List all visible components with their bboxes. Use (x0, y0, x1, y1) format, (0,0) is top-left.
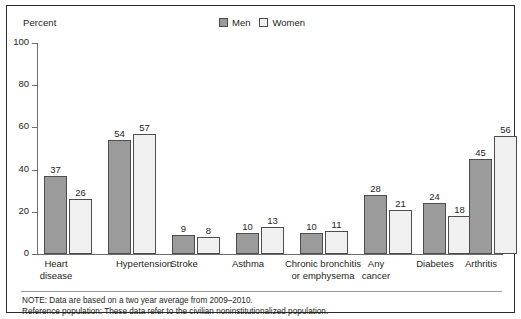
note-line-2: Reference population: These data refer t… (22, 307, 328, 318)
bar-value-men-1: 54 (114, 128, 125, 139)
y-tick-mark-80 (32, 85, 37, 86)
category-label-2: Stroke (148, 258, 220, 270)
y-tick-mark-60 (32, 127, 37, 128)
bar-women-4[interactable]: 11 (325, 231, 348, 254)
y-tick-label-100: 100 (7, 36, 29, 47)
y-tick-40: 40 (7, 170, 37, 171)
bar-value-women-0: 26 (75, 187, 86, 198)
bar-men-5[interactable]: 28 (364, 195, 387, 254)
bar-women-2[interactable]: 8 (197, 237, 220, 254)
figure-root: Percent Men Women 100 80 60 (0, 0, 521, 319)
bar-value-women-5: 21 (395, 198, 406, 209)
x-axis-line (37, 254, 503, 255)
y-tick-100: 100 (7, 43, 37, 44)
footer-divider (21, 291, 502, 292)
bar-women-0[interactable]: 26 (69, 199, 92, 254)
bar-women-1[interactable]: 57 (133, 134, 156, 254)
bar-men-2[interactable]: 9 (172, 235, 195, 254)
y-tick-label-60: 60 (7, 120, 29, 131)
bar-value-women-1: 57 (139, 122, 150, 133)
note-line-1: NOTE: Data are based on a two year avera… (22, 296, 328, 307)
bar-men-4[interactable]: 10 (300, 233, 323, 254)
y-tick-label-0: 0 (7, 247, 29, 258)
y-tick-mark-20 (32, 212, 37, 213)
bar-value-women-3: 13 (267, 215, 278, 226)
y-tick-20: 20 (7, 212, 37, 213)
bar-men-1[interactable]: 54 (108, 140, 131, 254)
category-label-7: Arthritis (445, 258, 517, 270)
bar-value-men-2: 9 (181, 223, 186, 234)
bar-women-6[interactable]: 18 (448, 216, 471, 254)
plot-area: 100 80 60 40 20 0 (7, 6, 516, 314)
bar-value-men-7: 45 (475, 147, 486, 158)
bar-men-7[interactable]: 45 (469, 159, 492, 254)
bar-men-3[interactable]: 10 (236, 233, 259, 254)
bar-value-men-0: 37 (50, 164, 61, 175)
chart-frame: Percent Men Women 100 80 60 (6, 5, 515, 313)
bar-men-6[interactable]: 24 (423, 203, 446, 254)
y-tick-mark-40 (32, 170, 37, 171)
bar-men-0[interactable]: 37 (44, 176, 67, 254)
bar-value-men-4: 10 (306, 221, 317, 232)
bar-value-women-6: 18 (454, 204, 465, 215)
bar-women-3[interactable]: 13 (261, 227, 284, 254)
y-tick-label-80: 80 (7, 78, 29, 89)
bar-women-5[interactable]: 21 (389, 210, 412, 254)
y-tick-label-20: 20 (7, 205, 29, 216)
bar-value-women-2: 8 (206, 225, 211, 236)
y-tick-0: 0 (7, 254, 37, 255)
y-tick-80: 80 (7, 85, 37, 86)
y-tick-mark-0 (32, 254, 37, 255)
bar-value-men-6: 24 (429, 191, 440, 202)
bar-women-7[interactable]: 56 (494, 136, 517, 254)
chart-notes: NOTE: Data are based on a two year avera… (22, 296, 328, 317)
y-tick-label-40: 40 (7, 163, 29, 174)
y-tick-60: 60 (7, 127, 37, 128)
bar-value-men-5: 28 (370, 183, 381, 194)
bar-value-men-3: 10 (242, 221, 253, 232)
bar-value-women-7: 56 (500, 124, 511, 135)
bar-value-women-4: 11 (332, 219, 342, 230)
y-tick-mark-100 (32, 43, 37, 44)
y-axis-line (37, 43, 38, 254)
